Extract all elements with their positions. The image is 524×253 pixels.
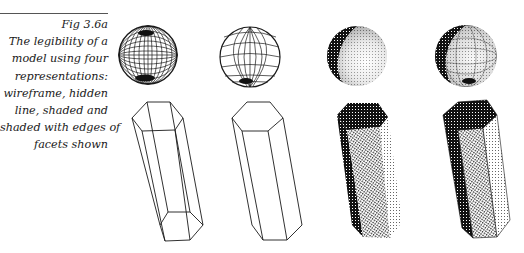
- shaded-edges-prism: [443, 100, 510, 238]
- shaded-prism: [337, 103, 402, 238]
- shaded-edges-sphere: [435, 25, 497, 87]
- hidden-line-sphere: [220, 27, 280, 87]
- wireframe-prism: [132, 102, 203, 241]
- wireframe-sphere: [119, 26, 177, 84]
- figure-illustration: [0, 0, 524, 253]
- hidden-line-prism: [232, 102, 302, 240]
- shaded-sphere: [327, 26, 387, 86]
